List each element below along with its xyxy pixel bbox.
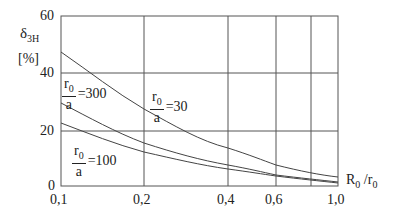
y-axis-unit: [%] xyxy=(18,52,39,66)
x-axis-label: R0 /r0 xyxy=(346,173,377,190)
y-tick-40: 40 xyxy=(40,66,54,80)
x-tick-0.4: 0,4 xyxy=(217,193,235,207)
x-tick-0.1: 0,1 xyxy=(50,193,68,207)
x-tick-0.2: 0,2 xyxy=(133,193,151,207)
x-tick-1.0: 1,0 xyxy=(327,193,345,207)
x-tick-0.6: 0,6 xyxy=(265,193,283,207)
y-tick-60: 60 xyxy=(40,9,54,23)
annotation-r0a-100: r0a =100 xyxy=(72,143,117,179)
y-tick-20: 20 xyxy=(40,124,54,138)
y-tick-0: 0 xyxy=(48,179,55,193)
annotation-r0a-30: r0a =30 xyxy=(150,89,188,125)
y-axis-label: δ3H xyxy=(20,26,39,44)
chart-plot-area xyxy=(0,0,398,216)
annotation-r0a-300: r0a =300 xyxy=(62,76,107,112)
